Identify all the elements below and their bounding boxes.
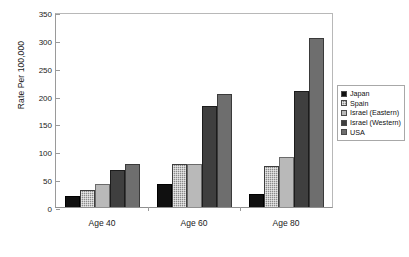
y-tick-mark [56,209,60,210]
legend-swatch-icon [341,120,347,126]
bar [294,91,309,207]
y-tick-label: 250 [39,65,52,74]
y-tick-label: 150 [39,121,52,130]
bar-group: Age 80 [240,14,332,207]
bar-groups: Age 40Age 60Age 80 [56,14,332,207]
bar [157,184,172,207]
legend-item: Israel (Eastern) [341,108,402,118]
legend-swatch-icon [341,100,347,106]
x-tick-mark [148,207,149,211]
bar [202,106,217,207]
bar [264,166,279,207]
plot-area: 050100150200250300350 Age 40Age 60Age 80 [55,13,333,208]
bar [249,194,264,207]
y-tick-label: 350 [39,10,52,19]
legend: JapanSpainIsrael (Eastern)Israel (Wester… [337,85,405,141]
y-tick-label: 300 [39,37,52,46]
legend-swatch-icon [341,91,347,97]
legend-swatch-icon [341,129,347,135]
y-tick-label: 100 [39,149,52,158]
bar [95,184,110,207]
bar-group: Age 60 [148,14,240,207]
bar [309,38,324,207]
bar-group: Age 40 [56,14,148,207]
legend-item: Spain [341,99,402,109]
legend-item: Israel (Western) [341,118,402,128]
bar [125,164,140,207]
y-tick-label: 0 [48,205,52,214]
bar [172,164,187,207]
x-axis-category-label: Age 40 [56,218,148,228]
legend-item: USA [341,127,402,137]
bar [217,94,232,207]
bar [65,196,80,207]
legend-item-label: Japan [350,89,370,98]
y-tick-label: 50 [43,177,52,186]
legend-item-label: USA [350,128,365,137]
legend-item-label: Spain [350,99,368,108]
y-tick-label: 200 [39,93,52,102]
bar [110,170,125,207]
legend-swatch-icon [341,110,347,116]
bar [187,164,202,207]
x-axis-category-label: Age 80 [240,218,332,228]
bar [279,157,294,207]
bar [80,190,95,207]
bar-chart: Rate Per 100,000 050100150200250300350 A… [0,0,409,257]
x-axis-category-label: Age 60 [148,218,240,228]
y-axis-title: Rate Per 100,000 [16,10,26,140]
legend-item-label: Israel (Western) [350,118,401,127]
legend-item-label: Israel (Eastern) [350,108,399,117]
legend-item: Japan [341,89,402,99]
x-tick-mark [240,207,241,211]
